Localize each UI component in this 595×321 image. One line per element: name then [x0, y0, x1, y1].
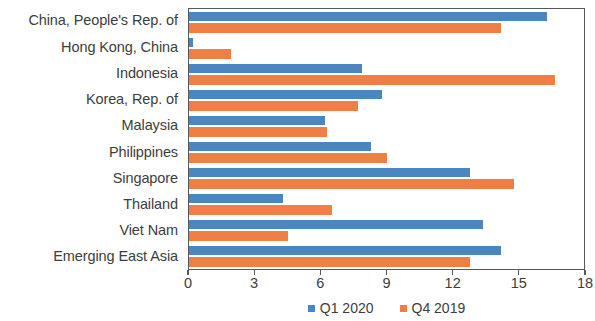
bar-q1-2020	[189, 246, 501, 256]
bar-q4-2019	[189, 75, 555, 85]
bar-group	[189, 165, 584, 191]
bar-rows	[189, 9, 584, 269]
bar-q1-2020	[189, 12, 547, 22]
category-label: Hong Kong, China	[0, 34, 184, 60]
bar-q1-2020	[189, 142, 371, 152]
bar-q4-2019	[189, 127, 327, 137]
bar-q4-2019	[189, 101, 358, 111]
bar-group	[189, 243, 584, 269]
bar-q4-2019	[189, 153, 387, 163]
category-label: Korea, Rep. of	[0, 87, 184, 113]
plot-area	[188, 8, 585, 270]
bar-group	[189, 61, 584, 87]
bar-chart: China, People's Rep. ofHong Kong, ChinaI…	[0, 0, 595, 321]
x-tick-label: 0	[184, 275, 192, 291]
bar-q1-2020	[189, 194, 283, 204]
bar-group	[189, 9, 584, 35]
bar-q4-2019	[189, 49, 231, 59]
x-tick-label: 6	[316, 275, 324, 291]
bar-q1-2020	[189, 116, 325, 126]
bar-group	[189, 113, 584, 139]
bar-q4-2019	[189, 23, 501, 33]
category-label: Viet Nam	[0, 218, 184, 244]
bar-q4-2019	[189, 231, 288, 241]
x-tick-label: 9	[382, 275, 390, 291]
bar-group	[189, 191, 584, 217]
legend-swatch-icon	[400, 305, 407, 312]
bar-q1-2020	[189, 64, 362, 74]
bar-q1-2020	[189, 38, 193, 48]
bar-group	[189, 35, 584, 61]
category-label: Singapore	[0, 165, 184, 191]
category-label: China, People's Rep. of	[0, 8, 184, 34]
legend-swatch-icon	[308, 305, 315, 312]
x-tick-label: 18	[577, 275, 593, 291]
bar-q4-2019	[189, 205, 332, 215]
bar-q4-2019	[189, 179, 514, 189]
chart-legend: Q1 2020Q4 2019	[188, 298, 585, 318]
bar-q1-2020	[189, 220, 483, 230]
x-tick-label: 12	[445, 275, 461, 291]
legend-item: Q4 2019	[400, 300, 466, 316]
bar-q1-2020	[189, 168, 470, 178]
x-axis-tick-labels: 0369121518	[188, 275, 585, 295]
legend-item: Q1 2020	[308, 300, 374, 316]
bar-q1-2020	[189, 90, 382, 100]
bar-q4-2019	[189, 257, 470, 267]
bar-group	[189, 139, 584, 165]
category-label: Philippines	[0, 139, 184, 165]
x-tick-label: 3	[250, 275, 258, 291]
category-label: Emerging East Asia	[0, 244, 184, 270]
bar-group	[189, 87, 584, 113]
category-label: Thailand	[0, 191, 184, 217]
category-label: Malaysia	[0, 113, 184, 139]
x-tick-label: 15	[511, 275, 527, 291]
legend-label: Q1 2020	[320, 300, 374, 316]
bar-group	[189, 217, 584, 243]
legend-label: Q4 2019	[412, 300, 466, 316]
category-label: Indonesia	[0, 60, 184, 86]
category-axis: China, People's Rep. ofHong Kong, ChinaI…	[0, 8, 184, 270]
